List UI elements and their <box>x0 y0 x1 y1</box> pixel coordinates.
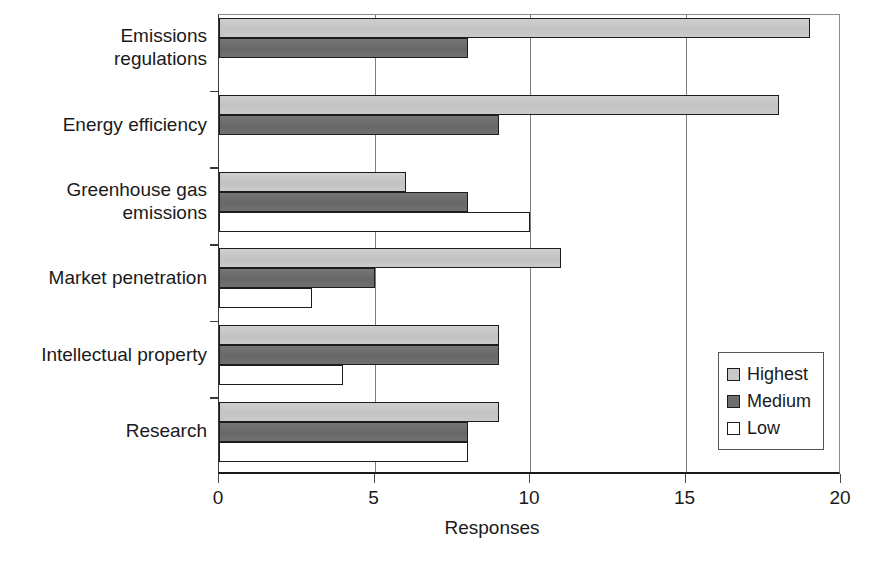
x-axis-tick <box>374 474 375 483</box>
x-axis-tick <box>840 474 841 483</box>
bar-highest <box>219 325 499 345</box>
x-axis-tick <box>218 474 219 483</box>
bar-low <box>219 212 530 232</box>
legend-swatch-low-icon <box>727 422 740 435</box>
legend-swatch-medium-icon <box>727 395 740 408</box>
category-label-line: Market penetration <box>7 266 207 289</box>
bar-medium <box>219 115 499 135</box>
category-label: Intellectual property <box>7 343 207 366</box>
bar-medium <box>219 38 468 58</box>
category-axis-labels: EmissionsregulationsEnergy efficiencyGre… <box>0 0 207 474</box>
legend-item: Low <box>727 415 823 442</box>
bar-low <box>219 365 343 385</box>
bar-highest <box>219 172 406 192</box>
category-axis-tick <box>210 244 219 246</box>
chart-legend: Highest Medium Low <box>718 352 824 450</box>
category-axis-tick <box>210 167 219 169</box>
category-label-line: Research <box>7 419 207 442</box>
x-axis-tick-label: 5 <box>344 487 404 509</box>
bar-highest <box>219 95 779 115</box>
category-label: Emissionsregulations <box>7 24 207 70</box>
category-axis-tick <box>210 321 219 323</box>
bar-medium <box>219 268 375 288</box>
bar-medium <box>219 422 468 442</box>
gridline <box>530 15 531 472</box>
category-label: Research <box>7 419 207 442</box>
category-label: Energy efficiency <box>7 113 207 136</box>
legend-item: Medium <box>727 388 823 415</box>
category-label: Market penetration <box>7 266 207 289</box>
bar-low <box>219 442 468 462</box>
legend-label-low: Low <box>747 418 780 439</box>
legend-item: Highest <box>727 361 823 388</box>
bar-low <box>219 288 312 308</box>
category-label-line: regulations <box>7 47 207 70</box>
bar-highest <box>219 18 810 38</box>
x-axis-tick-label: 15 <box>655 487 715 509</box>
category-axis-tick <box>210 91 219 93</box>
bar-medium <box>219 345 499 365</box>
category-label: Greenhouse gasemissions <box>7 178 207 224</box>
legend-label-medium: Medium <box>747 391 811 412</box>
legend-swatch-highest-icon <box>727 368 740 381</box>
gridline <box>686 15 687 472</box>
category-label-line: Emissions <box>7 24 207 47</box>
bar-highest <box>219 402 499 422</box>
legend-label-highest: Highest <box>747 364 808 385</box>
x-axis-title-text: Responses <box>444 517 539 538</box>
bar-medium <box>219 192 468 212</box>
x-axis-tick-label: 10 <box>499 487 559 509</box>
category-label-line: Energy efficiency <box>7 113 207 136</box>
x-axis-tick <box>529 474 530 483</box>
category-label-line: emissions <box>7 201 207 224</box>
x-axis-tick-label: 0 <box>188 487 248 509</box>
bar-chart: EmissionsregulationsEnergy efficiencyGre… <box>0 0 872 569</box>
x-axis-tick <box>685 474 686 483</box>
x-axis-title: Responses <box>0 517 872 539</box>
category-label-line: Intellectual property <box>7 343 207 366</box>
category-label-line: Greenhouse gas <box>7 178 207 201</box>
bar-highest <box>219 248 561 268</box>
category-axis-tick <box>210 397 219 399</box>
x-axis-tick-label: 20 <box>810 487 870 509</box>
